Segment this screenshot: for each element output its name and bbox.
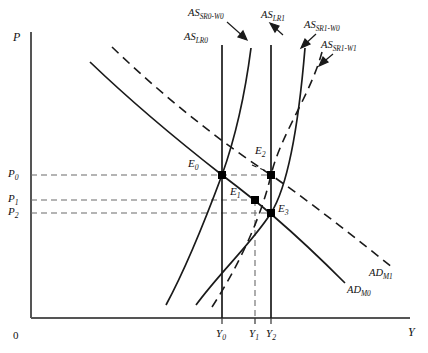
marker-e2 [267, 171, 275, 179]
curve-as-sr0-w0 [166, 48, 251, 305]
curve-label-as-lr1: ASLR1 [261, 10, 285, 21]
equilibrium-label-e1: E1 [230, 186, 241, 197]
curve-label-as-sr1-w0: ASSR1-W0 [304, 20, 340, 31]
curve-label-ad-m0: ADM0 [347, 285, 371, 296]
equilibrium-label-e0: E0 [188, 158, 199, 169]
equilibrium-label-e2: E2 [255, 145, 266, 156]
price-tick-p0: P0 [8, 168, 19, 179]
curve-as-sr1-w0 [196, 48, 305, 305]
figure-canvas: P Y 0 P0 P1 P2 Y0 Y1 Y2 E0 E1 E2 E3 ASLR… [0, 0, 428, 353]
marker-e0 [218, 171, 226, 179]
output-tick-y0: Y0 [216, 328, 226, 339]
equilibrium-label-e3: E3 [278, 203, 289, 214]
y-axis-label: P [13, 31, 20, 43]
output-tick-y1: Y1 [249, 328, 259, 339]
price-tick-p1: P1 [8, 193, 19, 204]
curve-ad-m0 [90, 62, 345, 283]
origin-label: 0 [13, 330, 19, 341]
curve-label-as-lr0: ASLR0 [184, 32, 208, 43]
output-tick-y2: Y2 [266, 328, 276, 339]
marker-e1 [251, 196, 259, 204]
x-axis-label: Y [408, 326, 415, 338]
diagram-svg [0, 0, 428, 353]
price-tick-p2: P2 [8, 206, 19, 217]
curve-label-ad-m1: ADM1 [369, 268, 393, 279]
marker-e3 [267, 209, 275, 217]
curve-label-as-sr1-w1: ASSR1-W1 [321, 40, 357, 51]
curve-label-as-sr0-w0: ASSR0-W0 [188, 8, 224, 19]
